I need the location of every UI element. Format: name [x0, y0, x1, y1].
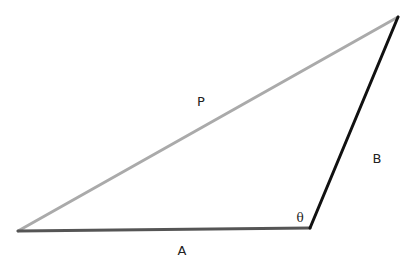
side-b-label: B	[373, 151, 382, 166]
side-a-label: A	[178, 243, 187, 258]
angle-theta-label: θ	[296, 211, 303, 225]
side-p-label: P	[197, 94, 205, 109]
side-a-line	[18, 228, 310, 231]
side-p-line	[18, 17, 398, 231]
side-b-line	[310, 17, 398, 228]
triangle-diagram: P A B θ	[0, 0, 419, 265]
